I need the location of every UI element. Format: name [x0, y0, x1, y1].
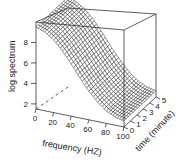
tick-mark [150, 103, 154, 105]
tick-label: 4 [155, 102, 160, 111]
z-axis: 2468 [24, 38, 36, 108]
tick-label: 40 [66, 121, 75, 130]
tick-label: 80 [101, 128, 110, 137]
tick-label: 100 [116, 132, 130, 141]
tick-label: 8 [24, 38, 29, 47]
tick-mark [137, 115, 141, 117]
tick-mark [35, 109, 36, 113]
tick-mark [156, 97, 160, 99]
tick-label: 3 [149, 108, 154, 117]
tick-label: 5 [162, 96, 167, 105]
tick-label: 20 [48, 118, 57, 127]
x-axis-label: frequency (HZ) [42, 138, 103, 157]
tick-label: 2 [143, 114, 148, 123]
tick-label: 1 [136, 120, 141, 129]
y-axis-label: time (minute) [133, 108, 176, 153]
z-axis-label: log spectrum [7, 40, 17, 92]
surface-mesh [36, 0, 156, 121]
surface-plot: 2468 020406080100 012345 log spectrum fr… [0, 0, 181, 162]
tick-mark [123, 127, 124, 131]
tick-label: 0 [33, 114, 38, 123]
tick-mark [53, 113, 54, 117]
tick-mark [143, 109, 147, 111]
tick-label: 60 [83, 125, 92, 134]
tick-mark [124, 127, 128, 129]
tick-mark [88, 120, 89, 124]
tick-mark [105, 123, 106, 127]
tick-label: 0 [130, 126, 135, 135]
tick-mark [70, 116, 71, 120]
tick-label: 4 [24, 79, 29, 88]
tick-label: 2 [24, 100, 29, 109]
tick-label: 6 [24, 59, 29, 68]
tick-mark [130, 121, 134, 123]
